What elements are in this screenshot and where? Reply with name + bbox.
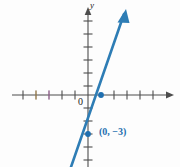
- graph-figure: y 0 (0, −3): [0, 0, 180, 167]
- x-intercept-point: [98, 92, 104, 98]
- origin-label: 0: [78, 97, 83, 107]
- y-axis-label: y: [90, 1, 94, 10]
- x-axis-arrow-icon: [166, 92, 174, 99]
- coordinate-plane-svg: [0, 0, 180, 167]
- plotted-line: [71, 14, 124, 167]
- point-coordinate-label: (0, −3): [99, 127, 126, 137]
- line-arrow-icon: [118, 9, 130, 23]
- y-intercept-point: [85, 131, 91, 137]
